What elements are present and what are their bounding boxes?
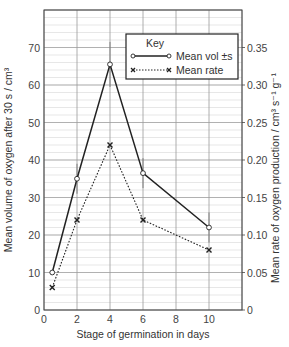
y-axis-title: Mean volume of oxygen after 30 s / cm³ — [2, 67, 14, 252]
series-mean-rate — [50, 143, 212, 291]
x-axis-ticks: 0246810 — [41, 313, 215, 325]
x-tick-label: 4 — [107, 313, 113, 325]
y-tick-label: 70 — [28, 42, 40, 54]
x-tick-label: 0 — [41, 313, 47, 325]
y2-tick-label: 0.10 — [247, 229, 268, 241]
y2-tick-label: 0.30 — [247, 79, 268, 91]
x-tick-label: 10 — [203, 313, 215, 325]
open-circle-marker-icon — [207, 225, 212, 230]
y-tick-label: 0 — [34, 304, 40, 316]
y-tick-label: 30 — [28, 192, 40, 204]
open-circle-marker-icon — [141, 171, 146, 176]
y-tick-label: 10 — [28, 267, 40, 279]
x-axis-title: Stage of germination in days — [76, 328, 209, 340]
y-tick-label: 40 — [28, 154, 40, 166]
y-tick-label: 60 — [28, 79, 40, 91]
chart: 0246810 010203040506070 00.050.100.150.2… — [0, 0, 289, 347]
y2-tick-label: 0.20 — [247, 154, 268, 166]
y-tick-label: 50 — [28, 117, 40, 129]
legend-label: Mean vol ±s — [176, 50, 233, 62]
open-circle-marker-icon — [108, 62, 113, 67]
x-tick-label: 2 — [74, 313, 80, 325]
y2-tick-label: 0.05 — [247, 267, 268, 279]
y2-axis-ticks: 00.050.100.150.200.250.300.35 — [242, 42, 268, 317]
y2-tick-label: 0 — [247, 304, 253, 316]
open-circle-marker-icon — [131, 54, 135, 58]
open-circle-marker-icon — [167, 54, 171, 58]
y2-tick-label: 0.35 — [247, 42, 268, 54]
y-tick-label: 20 — [28, 229, 40, 241]
legend-label: Mean rate — [176, 64, 223, 76]
y2-tick-label: 0.25 — [247, 117, 268, 129]
legend: Key Mean vol ±s Mean rate — [126, 34, 238, 79]
x-tick-label: 6 — [140, 313, 146, 325]
y-axis-ticks: 010203040506070 — [28, 42, 40, 317]
x-tick-label: 8 — [173, 313, 179, 325]
open-circle-marker-icon — [50, 270, 55, 275]
open-circle-marker-icon — [75, 176, 80, 181]
legend-title: Key — [146, 37, 165, 49]
y2-axis-title: Mean rate of oxygen production / cm³ s⁻¹… — [269, 73, 281, 283]
y2-tick-label: 0.15 — [247, 192, 268, 204]
